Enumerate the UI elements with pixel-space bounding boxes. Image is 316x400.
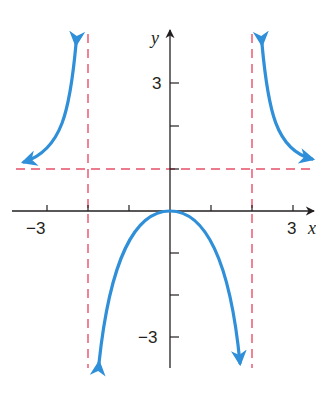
y-tick-label-pos3: 3 — [152, 74, 161, 93]
function-graph: −3 3 3 −3 y x — [0, 0, 316, 400]
asymptotes — [16, 34, 316, 368]
x-tick-label-neg3: −3 — [26, 219, 45, 238]
x-tick-label-pos3: 3 — [287, 219, 296, 238]
x-axis-label: x — [307, 218, 316, 238]
y-tick-label-neg3: −3 — [138, 328, 157, 347]
curve-right-branch — [262, 44, 312, 159]
curves — [24, 44, 312, 363]
y-axis-label: y — [149, 28, 159, 48]
axes — [12, 30, 314, 368]
curve-left-branch — [24, 44, 76, 162]
